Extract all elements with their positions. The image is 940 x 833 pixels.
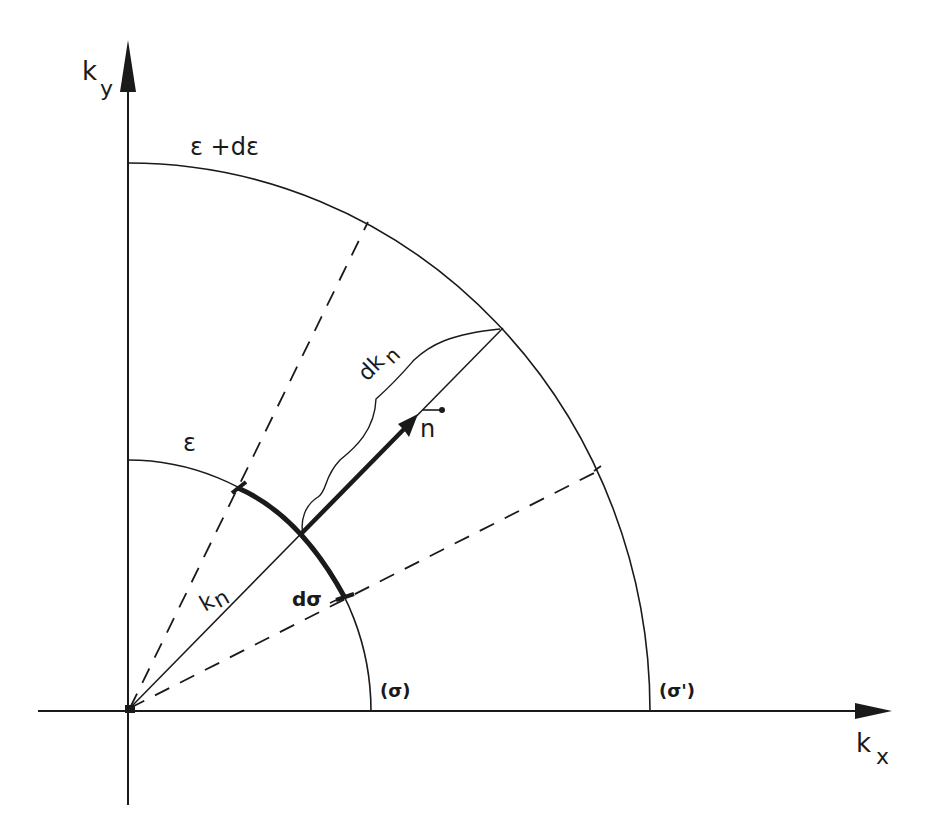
normal-vector [300, 423, 410, 535]
thickness-label: dk n [353, 338, 405, 390]
y-axis-subscript: y [100, 76, 113, 101]
vector-overarrow-icon [439, 407, 445, 413]
outer-surface-tag: (σ') [659, 680, 695, 701]
inner-surface-tag: (σ) [380, 680, 410, 701]
x-axis-label: k [856, 728, 871, 758]
outer-surface-label: ε +dε [190, 133, 259, 161]
dashed-line-upper [130, 222, 368, 708]
x-axis [38, 703, 892, 719]
radius-label: k n [195, 581, 234, 620]
outer-energy-surface [128, 163, 650, 711]
normal-vector-label: n [420, 415, 435, 443]
inner-surface-label: ε [183, 429, 196, 457]
surface-element-label: dσ [292, 587, 322, 611]
y-axis-arrow-icon [120, 40, 136, 92]
x-axis-subscript: x [876, 744, 889, 769]
dashed-line-lower [130, 470, 600, 708]
y-axis-label: k [82, 56, 97, 86]
origin-marker [125, 705, 135, 713]
y-axis [120, 40, 136, 805]
x-axis-arrow-icon [855, 703, 892, 719]
k-space-diagram: k y k x ε +dε ε (σ) (σ') k n dk n n dσ [0, 0, 940, 833]
